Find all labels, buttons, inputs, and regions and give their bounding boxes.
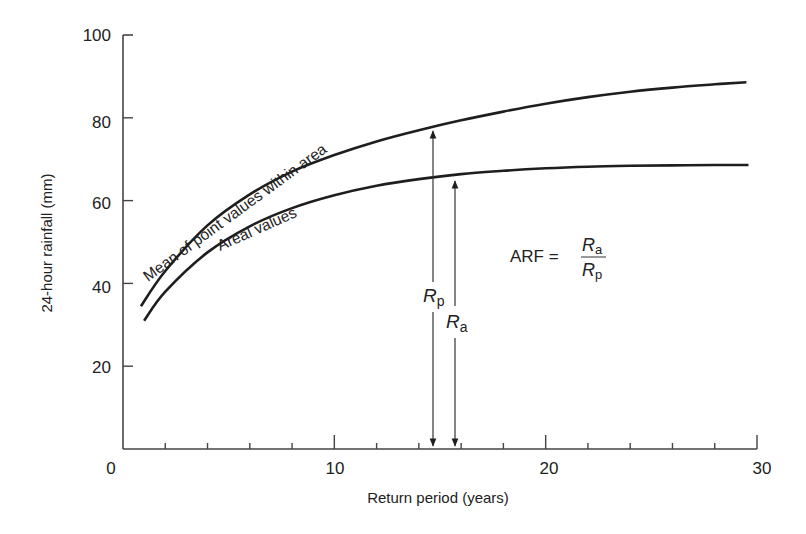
arf-lhs: ARF = bbox=[510, 247, 559, 266]
ra-label-r: R bbox=[446, 311, 460, 332]
rp-label: Rp bbox=[423, 285, 445, 309]
y-tick-labels: 100 80 60 40 20 bbox=[83, 26, 111, 377]
arf-num-r: R bbox=[582, 235, 595, 255]
y-axis-ticks bbox=[123, 118, 133, 366]
x-tick-label-0: 0 bbox=[106, 459, 115, 478]
arf-den-r: R bbox=[582, 260, 595, 280]
x-tick-labels: 0 10 20 30 bbox=[106, 459, 771, 478]
y-tick-label-40: 40 bbox=[92, 278, 111, 297]
rp-label-sub: p bbox=[437, 293, 445, 309]
ra-label: Ra bbox=[446, 311, 468, 335]
arf-den-sub: p bbox=[595, 267, 602, 282]
x-axis-ticks bbox=[165, 435, 757, 449]
x-tick-label-10: 10 bbox=[326, 459, 345, 478]
curve-mean-point-values bbox=[141, 82, 746, 306]
ra-label-sub: a bbox=[460, 319, 468, 335]
x-tick-label-20: 20 bbox=[540, 459, 559, 478]
arf-denominator: Rp bbox=[582, 260, 602, 282]
y-tick-label-100: 100 bbox=[83, 26, 111, 45]
arf-equation: ARF = Ra Rp bbox=[510, 235, 606, 282]
x-tick-label-30: 30 bbox=[753, 459, 772, 478]
arf-num-sub: a bbox=[595, 242, 603, 257]
rainfall-return-period-chart: 100 80 60 40 20 0 10 20 30 24-hour rainf… bbox=[0, 0, 806, 534]
y-tick-label-20: 20 bbox=[92, 358, 111, 377]
curve-label-mean: Mean of point values within area bbox=[140, 140, 330, 285]
rp-label-r: R bbox=[423, 285, 437, 306]
y-tick-label-80: 80 bbox=[92, 113, 111, 132]
y-tick-label-60: 60 bbox=[92, 194, 111, 213]
arf-numerator: Ra bbox=[582, 235, 603, 257]
x-axis-title: Return period (years) bbox=[367, 489, 509, 506]
y-axis-title: 24-hour rainfall (mm) bbox=[38, 173, 55, 312]
